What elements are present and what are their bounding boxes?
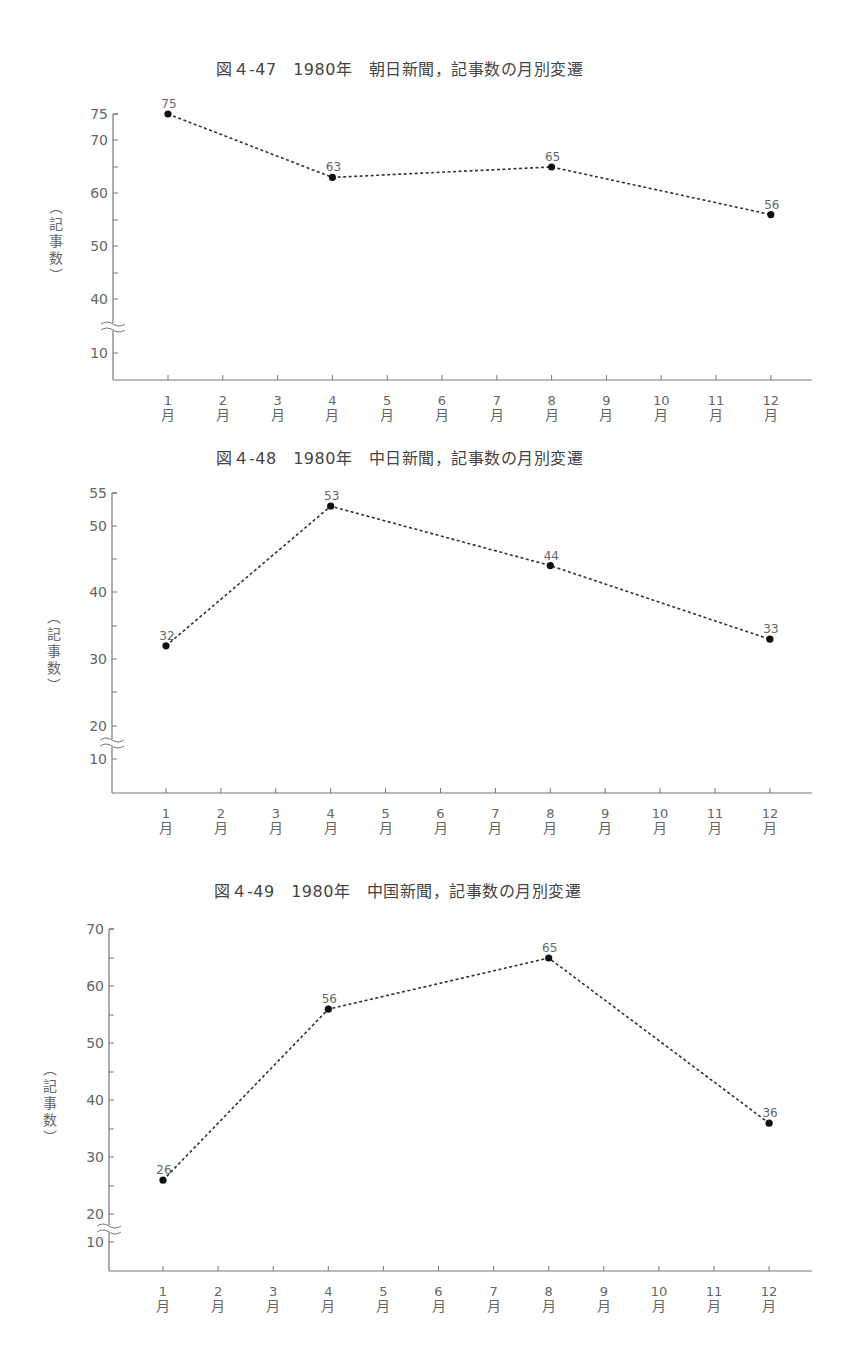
line-chart-2: 555040302010︵記事数︶1月2月3月4月5月6月7月8月9月10月11… (47, 485, 812, 836)
x-tick-label: 10 (651, 1284, 668, 1299)
svg-text:記: 記 (49, 216, 63, 232)
x-tick-label: 7 (493, 393, 501, 408)
svg-text:事: 事 (49, 233, 63, 249)
x-tick-label: 12 (763, 393, 780, 408)
x-tick-label: 6 (438, 393, 446, 408)
svg-text:月: 月 (214, 820, 228, 836)
x-tick-label: 6 (436, 806, 444, 821)
y-tick-label: 40 (86, 1092, 104, 1108)
svg-text:月: 月 (763, 820, 777, 836)
y-axis-label: ︵記事数︶ (49, 199, 63, 283)
data-point-label: 26 (156, 1163, 171, 1177)
svg-text:事: 事 (47, 643, 61, 659)
line-chart-1: 757060504010︵記事数︶1月2月3月4月5月6月7月8月9月10月11… (49, 97, 812, 423)
svg-text:︶: ︶ (43, 1129, 57, 1145)
x-tick-label: 4 (327, 806, 335, 821)
data-point-marker (159, 1177, 166, 1184)
data-point-label: 65 (545, 150, 560, 164)
x-tick-label: 9 (602, 393, 610, 408)
data-point-marker (329, 174, 336, 181)
svg-text:月: 月 (435, 407, 449, 423)
y-tick-label: 60 (90, 185, 108, 201)
data-point-marker (766, 1120, 773, 1127)
data-point-label: 63 (326, 160, 341, 174)
y-axis-label: ︵記事数︶ (47, 609, 61, 693)
x-tick-label: 7 (489, 1284, 497, 1299)
data-line (163, 958, 769, 1180)
svg-text:月: 月 (159, 820, 173, 836)
data-point-label: 53 (324, 489, 339, 503)
svg-text:月: 月 (543, 820, 557, 836)
svg-text:︶: ︶ (49, 267, 63, 283)
y-tick-label: 55 (89, 485, 107, 501)
x-tick-label: 12 (762, 806, 779, 821)
data-point-label: 33 (763, 622, 778, 636)
svg-text:︵: ︵ (43, 1061, 57, 1077)
svg-text:月: 月 (269, 820, 283, 836)
data-point-label: 32 (159, 629, 174, 643)
x-tick-label: 11 (706, 1284, 723, 1299)
x-tick-label: 2 (217, 806, 225, 821)
svg-text:事: 事 (43, 1095, 57, 1111)
data-point-marker (545, 954, 552, 961)
data-point-label: 65 (542, 941, 557, 955)
y-tick-label: 10 (89, 751, 107, 767)
y-tick-label: 20 (89, 718, 107, 734)
x-tick-label: 10 (652, 806, 669, 821)
svg-text:月: 月 (709, 407, 723, 423)
svg-text:記: 記 (43, 1078, 57, 1094)
x-tick-label: 5 (383, 393, 391, 408)
y-tick-label: 10 (86, 1234, 104, 1250)
svg-text:月: 月 (764, 407, 778, 423)
svg-text:月: 月 (271, 407, 285, 423)
y-tick-label: 60 (86, 978, 104, 994)
svg-text:月: 月 (654, 407, 668, 423)
x-tick-label: 6 (434, 1284, 442, 1299)
y-tick-label: 40 (89, 584, 107, 600)
x-tick-label: 12 (761, 1284, 778, 1299)
x-tick-label: 2 (214, 1284, 222, 1299)
data-point-label: 56 (764, 198, 779, 212)
x-tick-label: 3 (273, 393, 281, 408)
x-tick-label: 1 (164, 393, 172, 408)
data-point-marker (547, 562, 554, 569)
x-tick-label: 8 (547, 393, 555, 408)
x-tick-label: 5 (379, 1284, 387, 1299)
x-tick-label: 7 (491, 806, 499, 821)
x-tick-label: 1 (159, 1284, 167, 1299)
x-tick-label: 11 (708, 393, 725, 408)
data-point-marker (325, 1006, 332, 1013)
svg-text:月: 月 (216, 407, 230, 423)
svg-text:月: 月 (542, 1298, 556, 1314)
y-tick-label: 70 (86, 921, 104, 937)
svg-text:月: 月 (379, 820, 393, 836)
y-tick-label: 40 (90, 291, 108, 307)
svg-text:月: 月 (434, 820, 448, 836)
y-tick-label: 30 (89, 651, 107, 667)
x-tick-label: 5 (381, 806, 389, 821)
svg-text:月: 月 (597, 1298, 611, 1314)
data-point-marker (767, 211, 774, 218)
charts-canvas: 757060504010︵記事数︶1月2月3月4月5月6月7月8月9月10月11… (0, 0, 847, 1346)
svg-text:月: 月 (211, 1298, 225, 1314)
x-tick-label: 9 (600, 1284, 608, 1299)
y-tick-label: 50 (90, 238, 108, 254)
x-tick-label: 4 (324, 1284, 332, 1299)
x-tick-label: 4 (328, 393, 336, 408)
svg-text:月: 月 (490, 407, 504, 423)
y-tick-label: 70 (90, 132, 108, 148)
svg-text:月: 月 (708, 820, 722, 836)
data-line (166, 506, 770, 646)
y-tick-label: 10 (90, 345, 108, 361)
svg-text:月: 月 (321, 1298, 335, 1314)
svg-text:月: 月 (161, 407, 175, 423)
svg-text:月: 月 (324, 820, 338, 836)
x-tick-label: 3 (269, 1284, 277, 1299)
svg-text:︵: ︵ (47, 609, 61, 625)
data-point-marker (548, 163, 555, 170)
data-point-marker (164, 110, 171, 117)
data-point-label: 75 (161, 97, 176, 111)
svg-text:記: 記 (47, 626, 61, 642)
data-point-marker (766, 636, 773, 643)
y-tick-label: 75 (90, 106, 108, 122)
